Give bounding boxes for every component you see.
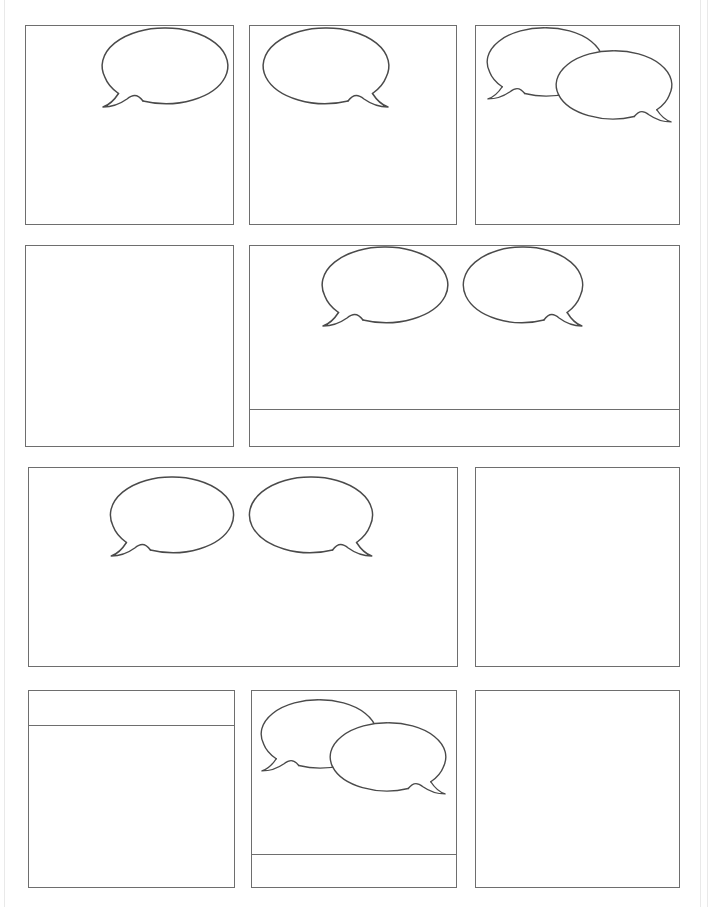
- comic-panel-6[interactable]: [28, 467, 458, 667]
- page-edge-left: [4, 0, 5, 907]
- caption-box-divider-panel-8: [29, 725, 234, 726]
- caption-box-divider-panel-9: [252, 854, 456, 855]
- comic-panel-3[interactable]: [475, 25, 680, 225]
- page-edge-right-outer: [707, 0, 708, 907]
- comic-panel-7[interactable]: [475, 467, 680, 667]
- comic-panel-8[interactable]: [28, 690, 235, 888]
- comic-panel-9[interactable]: [251, 690, 457, 888]
- comic-panel-10[interactable]: [475, 690, 680, 888]
- page-edge-right: [700, 0, 701, 907]
- caption-box-divider-panel-5: [250, 409, 679, 410]
- comic-panel-1[interactable]: [25, 25, 234, 225]
- comic-panel-2[interactable]: [249, 25, 457, 225]
- comic-page: [0, 0, 713, 907]
- comic-panel-5[interactable]: [249, 245, 680, 447]
- comic-panel-4[interactable]: [25, 245, 234, 447]
